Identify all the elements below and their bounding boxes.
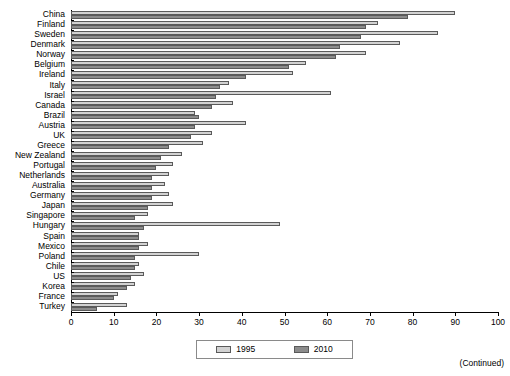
category-tick: [71, 50, 74, 51]
category-label: Hungary: [33, 221, 65, 230]
x-tick-mark: [199, 312, 200, 316]
category-tick: [71, 121, 74, 122]
category-tick: [71, 70, 74, 71]
table-row: [71, 131, 498, 141]
bar-2010: [71, 226, 144, 230]
category-tick: [71, 181, 74, 182]
category-label: Netherlands: [19, 171, 65, 180]
category-tick: [71, 40, 74, 41]
category-tick: [71, 60, 74, 61]
category-label: Belgium: [34, 60, 65, 69]
x-tick-label: 100: [491, 317, 505, 327]
table-row: [71, 81, 498, 91]
category-tick: [71, 272, 74, 273]
category-label: Poland: [39, 252, 65, 261]
category-label: Israel: [44, 91, 65, 100]
category-tick: [71, 231, 74, 232]
x-tick-mark: [455, 312, 456, 316]
table-row: [71, 222, 498, 232]
bar-2010: [71, 135, 191, 139]
bar-2010: [71, 125, 195, 129]
x-tick-label: 10: [109, 317, 118, 327]
category-axis-labels: ChinaFinlandSwedenDenmarkNorwayBelgiumIr…: [0, 10, 68, 312]
table-row: [71, 172, 498, 182]
category-tick: [71, 151, 74, 152]
bar-2010: [71, 216, 135, 220]
bar-2010: [71, 156, 161, 160]
category-label: Singapore: [26, 211, 65, 220]
category-tick: [71, 101, 74, 102]
bar-2010: [71, 307, 97, 311]
bar-rows: [71, 10, 498, 312]
table-row: [71, 162, 498, 172]
x-tick-mark: [156, 312, 157, 316]
table-row: [71, 212, 498, 222]
bar-2010: [71, 145, 169, 149]
category-label: UK: [53, 131, 65, 140]
category-tick: [71, 201, 74, 202]
category-label: Denmark: [31, 40, 65, 49]
legend-swatch-1995: [216, 346, 231, 353]
category-label: Turkey: [39, 302, 65, 311]
table-row: [71, 182, 498, 192]
table-row: [71, 152, 498, 162]
category-tick: [71, 191, 74, 192]
bar-2010: [71, 45, 340, 49]
legend-entry-2010: 2010: [294, 345, 333, 354]
bar-chart: ChinaFinlandSwedenDenmarkNorwayBelgiumIr…: [0, 0, 510, 376]
bar-2010: [71, 266, 135, 270]
category-label: Greece: [37, 141, 65, 150]
x-tick-mark: [114, 312, 115, 316]
bar-2010: [71, 166, 156, 170]
table-row: [71, 202, 498, 212]
x-tick-label: 40: [237, 317, 246, 327]
table-row: [71, 71, 498, 81]
category-tick: [71, 302, 74, 303]
x-tick-label: 30: [194, 317, 203, 327]
legend-entry-1995: 1995: [216, 345, 255, 354]
category-tick: [71, 20, 74, 21]
table-row: [71, 282, 498, 292]
table-row: [71, 41, 498, 51]
category-label: Spain: [43, 232, 65, 241]
x-tick-label: 90: [451, 317, 460, 327]
table-row: [71, 31, 498, 41]
category-label: Mexico: [38, 242, 65, 251]
category-label: Germany: [30, 191, 65, 200]
category-tick: [71, 91, 74, 92]
category-label: Italy: [49, 81, 65, 90]
chart-legend: 1995 2010: [196, 340, 353, 359]
bar-2010: [71, 35, 361, 39]
table-row: [71, 11, 498, 21]
table-row: [71, 21, 498, 31]
x-tick-label: 0: [69, 317, 74, 327]
clipped-chart-title: [71, 0, 498, 6]
table-row: [71, 61, 498, 71]
bar-2010: [71, 176, 152, 180]
x-tick-mark: [370, 312, 371, 316]
table-row: [71, 292, 498, 302]
bar-2010: [71, 115, 199, 119]
category-label: Australia: [32, 181, 65, 190]
legend-label-2010: 2010: [314, 345, 333, 354]
category-tick: [71, 252, 74, 253]
category-tick: [71, 282, 74, 283]
legend-swatch-2010: [294, 346, 309, 353]
table-row: [71, 141, 498, 151]
category-label: Japan: [42, 201, 65, 210]
category-label: Korea: [42, 282, 65, 291]
x-tick-mark: [498, 312, 499, 316]
category-tick: [71, 292, 74, 293]
category-label: Sweden: [34, 30, 65, 39]
category-tick: [71, 211, 74, 212]
x-tick-mark: [242, 312, 243, 316]
bar-2010: [71, 95, 216, 99]
category-tick: [71, 111, 74, 112]
bar-2010: [71, 65, 289, 69]
bar-2010: [71, 206, 148, 210]
table-row: [71, 101, 498, 111]
table-row: [71, 51, 498, 61]
category-label: China: [43, 10, 65, 19]
bar-2010: [71, 246, 139, 250]
bar-2010: [71, 75, 246, 79]
